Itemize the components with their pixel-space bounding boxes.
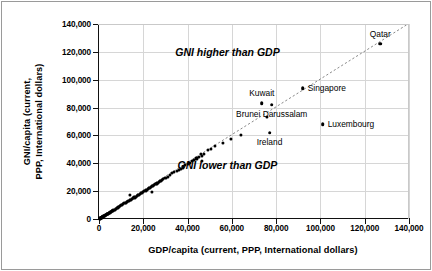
scatter-point-kuwait bbox=[260, 102, 264, 106]
x-tick-label: 20,000 bbox=[131, 224, 155, 233]
y-tick-label: 100,000 bbox=[62, 75, 91, 84]
plot-frame-right bbox=[408, 24, 409, 219]
point-label-singapore: Singapore bbox=[308, 83, 346, 93]
gridline-horizontal bbox=[99, 135, 408, 136]
plot-frame-top bbox=[98, 24, 408, 25]
y-tick-mark bbox=[93, 191, 99, 192]
point-label-luxembourg: Luxembourg bbox=[328, 119, 375, 129]
plot-area: 020,00040,00060,00080,000100,000120,0001… bbox=[98, 24, 408, 219]
x-tick-label: 140,000 bbox=[395, 224, 424, 233]
gridline-vertical bbox=[409, 24, 410, 218]
scatter-point-ireland bbox=[268, 131, 272, 135]
y-tick-mark bbox=[93, 163, 99, 164]
y-tick-mark bbox=[93, 80, 99, 81]
x-tick-label: 60,000 bbox=[220, 224, 244, 233]
x-tick-label: 100,000 bbox=[306, 224, 335, 233]
scatter-point bbox=[214, 144, 217, 147]
y-tick-label: 40,000 bbox=[67, 159, 91, 168]
scatter-point bbox=[151, 190, 154, 193]
x-tick-label: 80,000 bbox=[264, 224, 288, 233]
y-tick-mark bbox=[93, 52, 99, 53]
x-tick-label: 40,000 bbox=[175, 224, 199, 233]
x-tick-label: 0 bbox=[97, 224, 101, 233]
scatter-point bbox=[98, 217, 101, 220]
y-tick-mark bbox=[93, 108, 99, 109]
y-tick-label: 120,000 bbox=[62, 47, 91, 56]
scatter-point-luxembourg bbox=[321, 122, 325, 126]
y-tick-label: 140,000 bbox=[62, 20, 91, 29]
x-axis-title: GDP/capita (current, PPP, International … bbox=[98, 245, 408, 255]
gridline-vertical bbox=[320, 24, 321, 218]
annotation-gni-higher-than-gdp: GNI higher than GDP bbox=[175, 46, 279, 58]
point-label-brunei-darussalam: Brunei Darussalam bbox=[236, 109, 307, 119]
chart-figure: GNI/capita (current, PPP, International … bbox=[0, 0, 432, 271]
y-axis-title: GNI/capita (current, PPP, International … bbox=[14, 24, 54, 219]
scatter-point-qatar bbox=[378, 42, 382, 46]
point-label-ireland: Ireland bbox=[257, 137, 283, 147]
point-label-kuwait: Kuwait bbox=[249, 88, 274, 98]
y-tick-mark bbox=[93, 135, 99, 136]
scatter-point bbox=[128, 193, 131, 196]
gridline-horizontal bbox=[99, 80, 408, 81]
scatter-point bbox=[209, 147, 212, 150]
annotation-gni-lower-than-gdp: GNI lower than GDP bbox=[178, 159, 278, 171]
x-tick-label: 120,000 bbox=[350, 224, 379, 233]
scatter-point-singapore bbox=[301, 86, 305, 90]
scatter-point bbox=[221, 142, 224, 145]
y-tick-label: 80,000 bbox=[67, 103, 91, 112]
y-tick-label: 60,000 bbox=[67, 131, 91, 140]
y-axis-title-line1: GNI/capita (current, bbox=[23, 64, 35, 180]
point-label-qatar: Qatar bbox=[370, 29, 391, 39]
scatter-point bbox=[206, 149, 209, 152]
y-tick-label: 20,000 bbox=[67, 187, 91, 196]
scatter-point-brunei-darussalam bbox=[270, 103, 274, 107]
y-tick-label: 0 bbox=[87, 215, 91, 224]
y-axis-title-line2: PPP, International dollars) bbox=[34, 64, 46, 180]
